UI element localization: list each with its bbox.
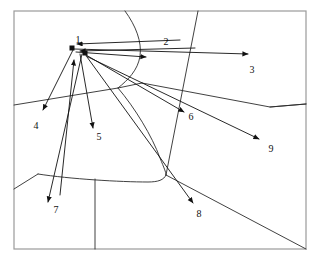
path-bottom-left (14, 174, 38, 189)
map-canvas: 123456789 (0, 0, 321, 261)
path-bottom-curve (38, 174, 166, 182)
path-mid-curve (118, 88, 166, 175)
label-8: 8 (197, 208, 202, 219)
label-9: 9 (269, 143, 274, 154)
path-spur-right (270, 104, 306, 107)
label-1: 1 (76, 34, 81, 45)
flow-out-5 (80, 54, 93, 128)
flow-out-3 (74, 49, 248, 54)
label-7: 7 (54, 204, 59, 215)
hub-markers (70, 46, 88, 56)
label-4: 4 (34, 120, 39, 131)
flow-out-4 (43, 50, 73, 110)
label-2: 2 (164, 36, 169, 47)
flow-out-8 (87, 57, 193, 203)
label-5: 5 (97, 131, 102, 142)
label-3: 3 (250, 64, 255, 75)
hub-a (70, 46, 75, 51)
flow-out-9 (86, 56, 259, 139)
path-diagonal-se (166, 175, 306, 249)
region-flow-map: 123456789 (0, 0, 321, 261)
flow-out-7 (48, 54, 82, 202)
node-labels: 123456789 (34, 34, 274, 219)
hub-b (83, 51, 88, 56)
label-6: 6 (189, 111, 194, 122)
flow-in-4 (60, 60, 74, 195)
